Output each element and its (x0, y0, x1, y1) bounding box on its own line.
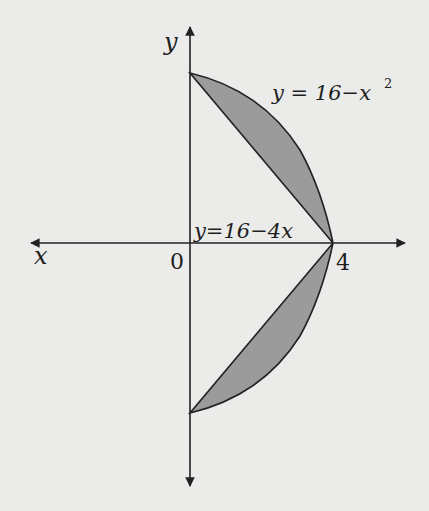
parabola-label: y = 16−x (271, 81, 371, 105)
tick-label-4: 4 (336, 250, 350, 275)
x-axis-label: x (34, 242, 48, 270)
parabola-exponent: 2 (384, 76, 392, 91)
origin-label: 0 (170, 249, 184, 274)
lower-shaded-region (190, 243, 333, 413)
y-axis-label: y (163, 28, 178, 56)
line-label: y=16−4x (193, 219, 293, 243)
area-diagram: y x 0 4 y = 16−x 2 y=16−4x (0, 0, 429, 511)
